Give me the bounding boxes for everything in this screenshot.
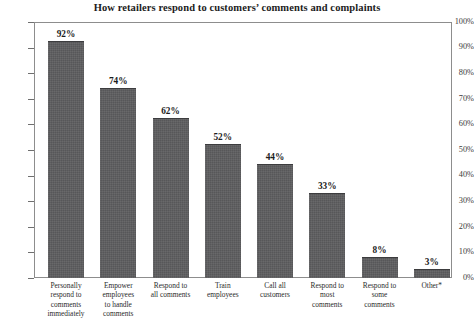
bar[interactable] bbox=[100, 88, 136, 278]
bar-value-label: 52% bbox=[195, 132, 251, 142]
x-axis-category-label: Respond tomostcomments bbox=[297, 281, 357, 309]
x-axis-category-label: Personallyrespond tocommentsimmediately bbox=[36, 281, 96, 319]
x-axis-category-label: Empoweremployeesto handlecomments bbox=[88, 281, 148, 319]
bar-value-label: 74% bbox=[90, 76, 146, 86]
bar-value-label: 8% bbox=[352, 245, 408, 255]
x-axis-category-label: Trainemployees bbox=[193, 281, 253, 300]
x-axis-category-label: Other* bbox=[402, 281, 462, 290]
bar-slot: 3% bbox=[414, 22, 450, 278]
bar-value-label: 92% bbox=[38, 29, 94, 39]
bar-slot: 33% bbox=[309, 22, 345, 278]
bar[interactable] bbox=[362, 257, 398, 278]
bar-slot: 92% bbox=[48, 22, 84, 278]
x-axis-category-label: Respond tosomecomments bbox=[349, 281, 409, 309]
bar[interactable] bbox=[205, 144, 241, 278]
bar[interactable] bbox=[153, 118, 189, 278]
bar[interactable] bbox=[414, 269, 450, 278]
chart-title: How retailers respond to customers’ comm… bbox=[0, 2, 474, 13]
bar-slot: 74% bbox=[100, 22, 136, 278]
y-axis-tick bbox=[28, 278, 34, 279]
bar[interactable] bbox=[309, 193, 345, 278]
bar-slot: 62% bbox=[153, 22, 189, 278]
bar-slot: 52% bbox=[205, 22, 241, 278]
x-axis-category-labels: Personallyrespond tocommentsimmediatelyE… bbox=[34, 281, 452, 330]
bar-value-label: 62% bbox=[143, 106, 199, 116]
bar-chart: How retailers respond to customers’ comm… bbox=[0, 0, 474, 330]
bar-slot: 8% bbox=[362, 22, 398, 278]
bar-value-label: 44% bbox=[247, 152, 303, 162]
bar[interactable] bbox=[48, 41, 84, 278]
bar-value-label: 33% bbox=[299, 181, 355, 191]
bar-value-label: 3% bbox=[404, 257, 460, 267]
bar[interactable] bbox=[257, 164, 293, 278]
x-axis-category-label: Respond toall comments bbox=[140, 281, 200, 300]
x-axis-category-label: Call allcustomers bbox=[245, 281, 305, 300]
bar-slot: 44% bbox=[257, 22, 293, 278]
bar-series: 92%74%62%52%44%33%8%3% bbox=[34, 22, 452, 278]
